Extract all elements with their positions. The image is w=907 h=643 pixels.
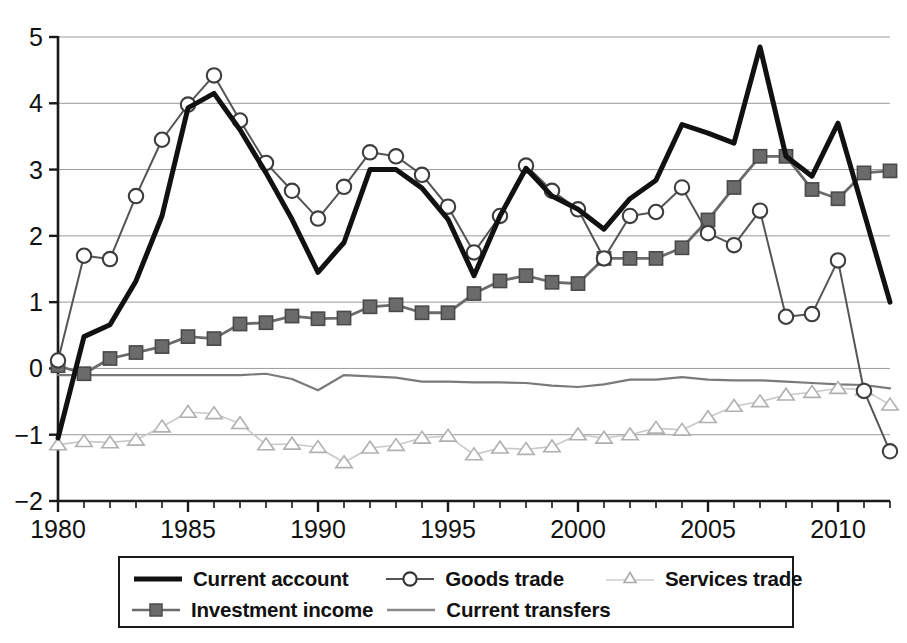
- data-point-marker: [285, 184, 299, 198]
- data-point-marker: [233, 317, 246, 330]
- data-point-marker: [415, 168, 429, 182]
- data-point-marker: [727, 181, 740, 194]
- data-point-marker: [311, 211, 325, 225]
- y-axis-tick-label: 0: [29, 354, 43, 382]
- data-point-marker: [284, 437, 300, 449]
- data-point-marker: [623, 252, 636, 265]
- data-point-marker: [155, 133, 169, 147]
- data-point-marker: [180, 405, 196, 417]
- legend-label: Goods trade: [445, 567, 564, 591]
- data-point-marker: [467, 245, 481, 259]
- data-point-marker: [363, 300, 376, 313]
- x-axis-tick-labels: 1980198519901995200020052010: [30, 515, 866, 543]
- data-point-marker: [545, 276, 558, 289]
- legend-label: Investment income: [191, 598, 373, 622]
- data-point-marker: [883, 164, 896, 177]
- line-triangle-swatch-icon: [604, 568, 656, 590]
- data-point-marker: [675, 180, 689, 194]
- series-investment-income: [51, 150, 896, 381]
- legend-item-services-trade: Services trade: [604, 567, 802, 591]
- data-point-marker: [337, 311, 350, 324]
- data-point-marker: [519, 269, 532, 282]
- x-axis-tick-label: 1990: [290, 515, 346, 543]
- y-axis-tick-label: 5: [29, 23, 43, 51]
- data-point-marker: [154, 420, 170, 432]
- chart-legend: Current account Goods trade Services tra…: [118, 556, 794, 628]
- data-point-marker: [831, 253, 845, 267]
- data-point-marker: [467, 287, 480, 300]
- series-services-trade: [50, 382, 898, 468]
- data-point-marker: [389, 149, 403, 163]
- data-point-marker: [441, 306, 454, 319]
- data-point-marker: [155, 340, 168, 353]
- data-point-marker: [103, 352, 116, 365]
- data-point-marker: [129, 346, 142, 359]
- chart-figure: 543210−1−2 1980198519901995200020052010 …: [0, 0, 907, 643]
- data-point-marker: [883, 444, 897, 458]
- data-point-marker: [857, 384, 871, 398]
- data-point-marker: [597, 251, 611, 265]
- data-point-marker: [129, 189, 143, 203]
- y-axis-tick-label: −1: [14, 421, 43, 449]
- x-axis-tick-label: 2000: [550, 515, 606, 543]
- data-point-marker: [648, 421, 664, 433]
- data-point-marker: [76, 435, 92, 447]
- y-axis-tick-label: 2: [29, 222, 43, 250]
- data-point-marker: [232, 417, 248, 429]
- data-point-marker: [181, 330, 194, 343]
- y-axis-tick-label: 3: [29, 156, 43, 184]
- data-point-marker: [544, 440, 560, 452]
- x-axis-tick-label: 2010: [810, 515, 866, 543]
- legend-row: Current account Goods trade Services tra…: [130, 563, 784, 594]
- data-point-marker: [492, 441, 508, 453]
- x-axis-tick-label: 1985: [160, 515, 216, 543]
- line-square-swatch-icon: [130, 599, 182, 621]
- legend-item-investment-income: Investment income: [130, 598, 373, 622]
- thin-line-swatch-icon: [385, 599, 437, 621]
- thick-line-swatch-icon: [132, 568, 184, 590]
- legend-item-current-account: Current account: [132, 567, 348, 591]
- data-point-marker: [700, 411, 716, 423]
- legend-label: Current transfers: [446, 598, 610, 622]
- data-point-marker: [77, 367, 90, 380]
- data-point-marker: [857, 166, 870, 179]
- data-point-marker: [389, 298, 402, 311]
- series-current-transfers: [58, 374, 890, 391]
- x-axis-ticks: [58, 501, 890, 512]
- data-point-marker: [363, 145, 377, 159]
- series-line: [58, 374, 890, 391]
- data-point-marker: [649, 205, 663, 219]
- data-point-marker: [440, 429, 456, 441]
- legend-label: Services trade: [665, 567, 802, 591]
- data-point-marker: [779, 310, 793, 324]
- data-point-marker: [103, 252, 117, 266]
- data-point-marker: [882, 398, 898, 410]
- data-point-marker: [285, 309, 298, 322]
- data-point-marker: [77, 249, 91, 263]
- y-axis-tick-label: −2: [14, 487, 43, 515]
- data-point-marker: [701, 226, 715, 240]
- data-point-marker: [311, 312, 324, 325]
- legend-label: Current account: [193, 567, 348, 591]
- x-axis-tick-label: 2005: [680, 515, 736, 543]
- data-point-marker: [259, 316, 272, 329]
- line-chart: 543210−1−2 1980198519901995200020052010: [0, 0, 907, 643]
- y-axis-tick-labels: 543210−1−2: [14, 23, 43, 515]
- data-series-layer: [50, 47, 898, 468]
- series-goods-trade: [51, 68, 897, 458]
- data-point-marker: [336, 456, 352, 468]
- y-axis-tick-label: 4: [29, 89, 43, 117]
- data-point-marker: [623, 209, 637, 223]
- data-point-marker: [805, 183, 818, 196]
- data-point-marker: [571, 277, 584, 290]
- data-point-marker: [753, 150, 766, 163]
- legend-row: Investment income Current transfers: [130, 594, 784, 625]
- data-point-marker: [337, 180, 351, 194]
- legend-item-current-transfers: Current transfers: [385, 598, 610, 622]
- data-point-marker: [51, 353, 65, 367]
- y-axis-tick-label: 1: [29, 288, 43, 316]
- y-axis-ticks: [49, 37, 58, 501]
- data-point-marker: [675, 241, 688, 254]
- line-circle-swatch-icon: [384, 568, 436, 590]
- x-axis-tick-label: 1980: [30, 515, 86, 543]
